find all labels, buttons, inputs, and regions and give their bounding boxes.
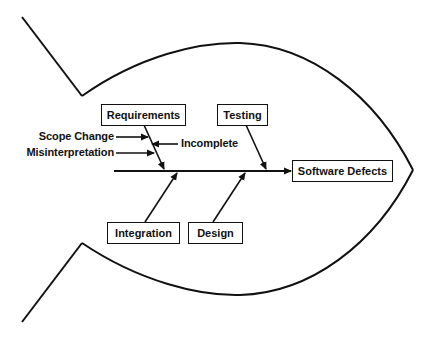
testing-bone [246,125,266,169]
cause-box-testing: Testing [217,104,268,126]
integration-bone [145,173,177,222]
fish-tail-top [22,17,82,96]
fish-tail-bottom [22,243,82,322]
effect-label: Software Defects [298,165,387,177]
cause-box-design: Design [188,222,243,244]
cause-label-testing: Testing [223,109,261,121]
requirements-bone [144,125,164,169]
cause-label-requirements: Requirements [107,109,180,121]
sub-cause-scope-change: Scope Change [39,131,114,142]
cause-label-design: Design [197,227,234,239]
design-bone [213,173,245,222]
cause-box-integration: Integration [107,222,180,244]
cause-box-requirements: Requirements [101,104,186,126]
cause-label-integration: Integration [115,227,172,239]
sub-cause-incomplete: Incomplete [181,138,238,149]
effect-box: Software Defects [292,160,393,182]
sub-cause-misinterpretation: Misinterpretation [26,147,114,158]
